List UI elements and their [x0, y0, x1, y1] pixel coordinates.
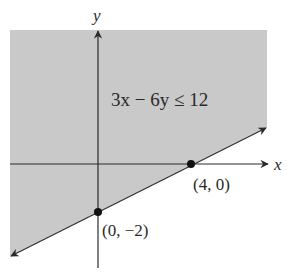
point-x-intercept: [187, 160, 195, 168]
inequality-graph: y x 3x − 6y ≤ 12 (4, 0) (0, −2): [0, 0, 287, 273]
point-y-intercept-label: (0, −2): [102, 221, 148, 240]
inequality-label: 3x − 6y ≤ 12: [111, 89, 208, 110]
point-x-intercept-label: (4, 0): [193, 175, 230, 194]
point-y-intercept: [94, 208, 102, 216]
x-axis-label: x: [273, 155, 282, 174]
y-axis-label: y: [91, 6, 101, 25]
